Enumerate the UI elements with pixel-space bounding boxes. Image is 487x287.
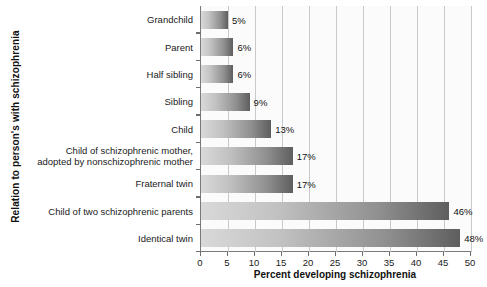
y-axis-tick <box>196 114 201 115</box>
bar[interactable] <box>201 229 460 247</box>
category-label: Child of schizophrenic mother, adopted b… <box>37 145 193 167</box>
x-axis-tick <box>470 252 471 256</box>
y-axis-tick <box>196 224 201 225</box>
x-axis-tick <box>335 252 336 256</box>
bar-value-label: 6% <box>237 69 251 80</box>
bar-row[interactable]: 48% <box>201 229 471 247</box>
x-axis-tick-label: 15 <box>269 257 293 268</box>
bar[interactable] <box>201 11 228 29</box>
x-axis-tick <box>416 252 417 256</box>
bar[interactable] <box>201 147 293 165</box>
y-axis-tick <box>196 60 201 61</box>
y-axis-title-text: Relation to person's with schizophrenia <box>10 30 21 222</box>
x-axis-tick <box>362 252 363 256</box>
y-axis-tick <box>196 169 201 170</box>
bar[interactable] <box>201 175 293 193</box>
bar-value-label: 13% <box>275 124 294 135</box>
x-axis-tick-label: 5 <box>215 257 239 268</box>
x-axis-tick-label: 40 <box>404 257 428 268</box>
bar-value-label: 17% <box>297 178 316 189</box>
y-axis-tick <box>196 142 201 143</box>
bar-row[interactable]: 13% <box>201 120 471 138</box>
bar[interactable] <box>201 120 271 138</box>
category-label: Child of two schizophrenic parents <box>48 206 193 217</box>
bar-value-label: 6% <box>237 42 251 53</box>
x-axis-tick <box>389 252 390 256</box>
x-axis-tick <box>281 252 282 256</box>
x-axis-tick-label: 50 <box>458 257 482 268</box>
bar-row[interactable]: 17% <box>201 175 471 193</box>
y-axis-tick <box>196 196 201 197</box>
plot-area: 5%6%6%9%13%17%17%46%48% <box>200 6 471 252</box>
bar-row[interactable]: 6% <box>201 38 471 56</box>
bar-value-label: 9% <box>254 96 268 107</box>
x-axis-tick-label: 20 <box>296 257 320 268</box>
y-axis-tick <box>196 87 201 88</box>
bar[interactable] <box>201 65 233 83</box>
category-label-list: GrandchildParentHalf siblingSiblingChild… <box>30 6 197 252</box>
bar[interactable] <box>201 38 233 56</box>
x-axis-tick-label: 0 <box>188 257 212 268</box>
bar-value-label: 17% <box>297 151 316 162</box>
category-label: Grandchild <box>147 14 193 25</box>
x-axis-tick <box>443 252 444 256</box>
bar-row[interactable]: 46% <box>201 202 471 220</box>
x-axis-tick <box>227 252 228 256</box>
x-axis-tick <box>200 252 201 256</box>
x-axis-tick-label: 10 <box>242 257 266 268</box>
x-axis-tick-label: 25 <box>323 257 347 268</box>
bar-value-label: 48% <box>464 233 483 244</box>
bar-row[interactable]: 9% <box>201 93 471 111</box>
bar[interactable] <box>201 202 449 220</box>
category-label: Parent <box>165 42 193 53</box>
bar[interactable] <box>201 93 250 111</box>
category-label: Sibling <box>164 96 193 107</box>
category-label: Fraternal twin <box>135 178 193 189</box>
bar-row[interactable]: 17% <box>201 147 471 165</box>
x-axis-tick-label: 35 <box>377 257 401 268</box>
category-label: Child <box>171 124 193 135</box>
bar-chart: Relation to person's with schizophrenia … <box>0 0 487 287</box>
x-axis-tick <box>254 252 255 256</box>
category-label: Identical twin <box>138 233 193 244</box>
bar-value-label: 5% <box>232 14 246 25</box>
y-axis-title: Relation to person's with schizophrenia <box>0 0 30 252</box>
category-label: Half sibling <box>147 69 193 80</box>
x-axis-title: Percent developing schizophrenia <box>200 269 470 280</box>
y-axis-tick <box>196 32 201 33</box>
x-axis-tick-label: 45 <box>431 257 455 268</box>
bar-row[interactable]: 5% <box>201 11 471 29</box>
bar-value-label: 46% <box>453 206 472 217</box>
bar-row[interactable]: 6% <box>201 65 471 83</box>
x-axis-tick-label: 30 <box>350 257 374 268</box>
x-axis-tick <box>308 252 309 256</box>
